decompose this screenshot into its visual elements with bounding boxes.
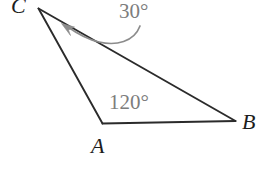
angle-measure-at-a: 120° <box>109 92 149 113</box>
curved-arrow-shaft <box>68 26 140 43</box>
vertex-label-b: B <box>242 111 255 133</box>
vertex-label-a: A <box>91 135 104 157</box>
angle-measure-at-c: 30° <box>119 1 148 22</box>
geometry-figure: C A B 30° 120° <box>0 0 276 177</box>
edge-AB <box>103 121 236 124</box>
triangle-diagram-canvas <box>0 0 276 177</box>
curved-arrow-to-angle-C <box>62 24 141 44</box>
vertex-label-c: C <box>11 0 26 17</box>
